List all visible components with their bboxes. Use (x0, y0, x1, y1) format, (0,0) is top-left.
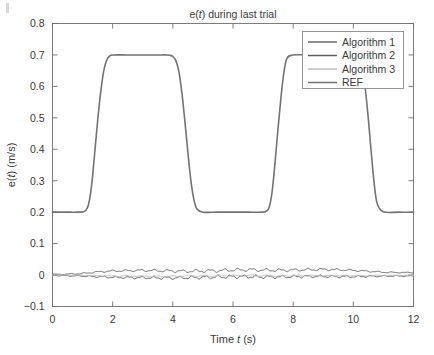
x-tick-label: 6 (230, 313, 236, 325)
x-tick-label: 2 (110, 313, 116, 325)
x-tick-label: 12 (408, 313, 420, 325)
y-tick-label: 0 (39, 269, 45, 281)
legend-label-3[interactable]: Algorithm 3 (342, 63, 395, 75)
legend-label-2[interactable]: Algorithm 2 (342, 49, 395, 61)
y-tick-label: 0.3 (30, 175, 45, 187)
legend[interactable]: Algorithm 1Algorithm 2Algorithm 3REF (303, 32, 404, 89)
y-axis-label: e(t) (m/s) (5, 143, 17, 188)
chart-canvas: e(t) during last trial −0.100.10.20.30.4… (0, 0, 434, 355)
y-tick-label: 0.1 (30, 237, 45, 249)
y-tick-label: 0.5 (30, 112, 45, 124)
x-axis-label: Time t (s) (210, 333, 256, 345)
series-line-algorithm-1 (53, 268, 414, 274)
y-tick-label: 0.4 (30, 143, 45, 155)
chart-title: e(t) during last trial (190, 8, 277, 20)
y-tick-label: 0.8 (30, 17, 45, 29)
x-tick-label: 4 (170, 313, 176, 325)
legend-label-4[interactable]: REF (342, 76, 363, 88)
y-tick-label: 0.6 (30, 80, 45, 92)
corner-artifact (6, 3, 9, 13)
legend-label-1[interactable]: Algorithm 1 (342, 36, 395, 48)
y-tick-label: −0.1 (24, 300, 45, 312)
x-tick-label: 0 (50, 313, 56, 325)
y-tick-label: 0.2 (30, 206, 45, 218)
y-tick-label: 0.7 (30, 49, 45, 61)
figure-container: e(t) during last trial −0.100.10.20.30.4… (0, 0, 434, 355)
x-tick-label: 10 (347, 313, 359, 325)
x-tick-label: 8 (290, 313, 296, 325)
